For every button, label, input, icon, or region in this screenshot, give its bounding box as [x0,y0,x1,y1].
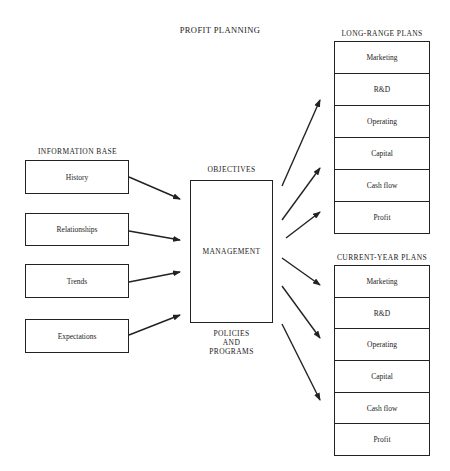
arrow-icon [282,258,320,285]
arrow-icon [282,100,320,186]
arrow-icon [286,212,320,238]
arrow-icon [282,324,320,400]
arrow-icon [129,272,180,282]
arrow-icon [129,315,180,335]
arrow-icon [282,168,320,220]
arrow-icon [129,231,180,240]
arrow-icon [282,286,320,338]
arrow-icon [129,177,180,199]
flow-arrows [0,0,450,471]
